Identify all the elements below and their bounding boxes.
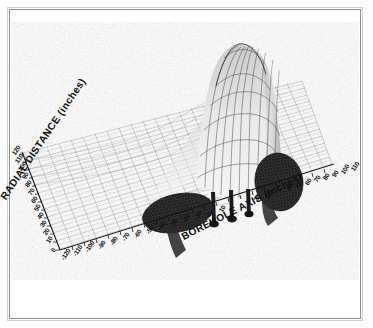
figure-container: 0 10 20 30 40 50 60 70 80 90 100 110 120… xyxy=(0,0,373,328)
plot-svg xyxy=(0,0,373,328)
surface-plot-canvas xyxy=(0,0,373,328)
